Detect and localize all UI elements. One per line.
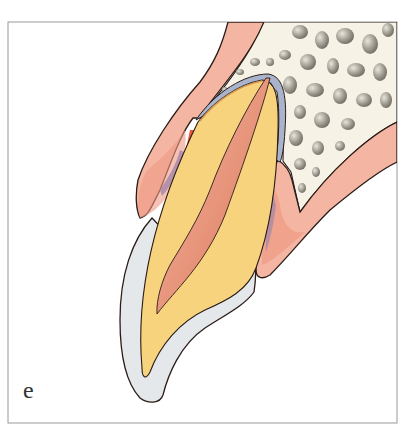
panel-label: e [23,378,34,402]
tooth-illustration [0,0,418,428]
